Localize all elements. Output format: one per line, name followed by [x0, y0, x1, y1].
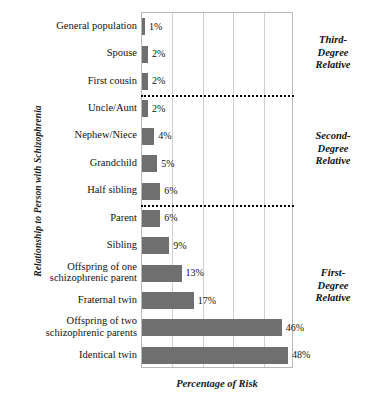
category-label: Uncle/Aunt: [18, 102, 137, 114]
bar-value-label: 2%: [152, 49, 165, 59]
bar: [142, 347, 288, 364]
bar: [142, 292, 194, 309]
group-annotation: Second-DegreeRelative: [296, 130, 370, 168]
category-label-line: General population: [18, 20, 137, 32]
bar-value-label: 6%: [164, 186, 177, 196]
category-label-line: schizophrenic parents: [18, 327, 137, 339]
bar: [142, 319, 282, 336]
bar: [142, 237, 169, 254]
category-label: Fraternal twin: [18, 294, 137, 306]
category-label-line: Half sibling: [18, 184, 137, 196]
bar-value-label: 17%: [198, 296, 216, 306]
risk-bar-chart: Relationship to Person with Schizophreni…: [0, 0, 372, 405]
bar: [142, 100, 148, 117]
group-annotation-line: Relative: [296, 155, 370, 168]
category-label-line: Spouse: [18, 47, 137, 59]
bar-value-label: 5%: [161, 159, 174, 169]
bar-value-label: 13%: [186, 268, 204, 278]
group-annotation: First-DegreeRelative: [296, 267, 370, 305]
group-annotation-line: Relative: [296, 292, 370, 305]
group-annotation-line: Degree: [296, 143, 370, 156]
category-axis-labels: General populationSpouseFirst cousinUncl…: [18, 12, 137, 368]
gridline: [233, 13, 234, 367]
bar: [142, 155, 157, 172]
category-label-line: Parent: [18, 212, 137, 224]
gridline: [264, 13, 265, 367]
bar-value-label: 6%: [164, 213, 177, 223]
bar-value-label: 1%: [149, 22, 162, 32]
category-label: Sibling: [18, 239, 137, 251]
category-label: Offspring of twoschizophrenic parents: [18, 315, 137, 338]
category-label: Nephew/Niece: [18, 129, 137, 141]
bar: [142, 183, 160, 200]
category-label-line: Offspring of one: [18, 261, 137, 273]
category-label: Spouse: [18, 47, 137, 59]
group-annotations: Third-DegreeRelativeSecond-DegreeRelativ…: [296, 12, 372, 368]
bar: [142, 46, 148, 63]
gridline: [203, 13, 204, 367]
bar: [142, 18, 145, 35]
category-label-line: First cousin: [18, 75, 137, 87]
category-label: General population: [18, 20, 137, 32]
group-separator: [141, 205, 294, 207]
category-label: Grandchild: [18, 157, 137, 169]
category-label: First cousin: [18, 75, 137, 87]
category-label-line: schizophrenic parent: [18, 272, 137, 284]
group-annotation-line: First-: [296, 267, 370, 280]
category-label-line: Nephew/Niece: [18, 129, 137, 141]
bar-value-label: 4%: [158, 131, 171, 141]
category-label-line: Offspring of two: [18, 315, 137, 327]
bar: [142, 210, 160, 227]
bar-value-label: 2%: [152, 76, 165, 86]
category-label-line: Identical twin: [18, 349, 137, 361]
group-annotation: Third-DegreeRelative: [296, 34, 370, 72]
x-axis-title: Percentage of Risk: [141, 378, 293, 389]
category-label: Offspring of oneschizophrenic parent: [18, 261, 137, 284]
category-label: Identical twin: [18, 349, 137, 361]
bar: [142, 73, 148, 90]
group-annotation-line: Third-: [296, 34, 370, 47]
bar: [142, 265, 182, 282]
group-annotation-line: Second-: [296, 130, 370, 143]
category-label: Parent: [18, 212, 137, 224]
category-label-line: Fraternal twin: [18, 294, 137, 306]
category-label-line: Uncle/Aunt: [18, 102, 137, 114]
category-label-line: Grandchild: [18, 157, 137, 169]
category-label-line: Sibling: [18, 239, 137, 251]
plot-area: 1%2%2%2%4%5%6%6%9%13%17%46%48%: [141, 12, 293, 368]
category-label: Half sibling: [18, 184, 137, 196]
bar-value-label: 9%: [173, 241, 186, 251]
group-annotation-line: Relative: [296, 59, 370, 72]
bar: [142, 128, 154, 145]
group-separator: [141, 95, 294, 97]
group-annotation-line: Degree: [296, 47, 370, 60]
bar-value-label: 2%: [152, 104, 165, 114]
group-annotation-line: Degree: [296, 280, 370, 293]
